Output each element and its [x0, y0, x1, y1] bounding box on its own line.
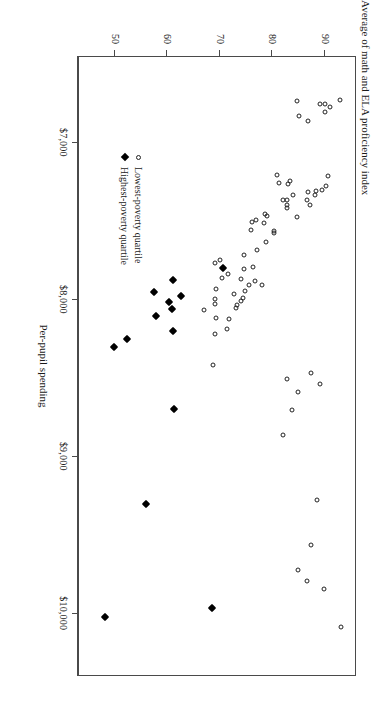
data-point [305, 119, 310, 124]
y-axis-tick [324, 50, 325, 56]
data-point [285, 376, 290, 381]
data-point [142, 500, 150, 508]
data-point [101, 613, 109, 621]
data-point [339, 624, 344, 629]
data-point [308, 370, 313, 375]
y-axis-tick-label: 70 [214, 4, 225, 44]
data-point [169, 276, 177, 284]
data-point [261, 220, 266, 225]
data-point [220, 275, 225, 280]
data-point [295, 568, 300, 573]
y-axis-tick-label: 50 [109, 4, 120, 44]
data-point [263, 240, 268, 245]
x-axis-tick-label: $7,000 [58, 128, 69, 157]
data-point [284, 205, 289, 210]
filled-diamond-icon [122, 150, 128, 164]
y-axis-tick-label: 60 [162, 4, 173, 44]
data-point [304, 579, 309, 584]
data-point [263, 211, 268, 216]
data-point [308, 543, 313, 548]
data-point [109, 343, 117, 351]
scatter-plot-figure: Average of math and ELA proficiency inde… [0, 0, 378, 710]
data-point [317, 382, 322, 387]
data-point [232, 292, 237, 297]
data-point [295, 215, 300, 220]
y-axis-tick [271, 50, 272, 56]
data-point [213, 301, 218, 306]
data-point [217, 258, 222, 263]
data-point [234, 306, 239, 311]
x-axis-tick [72, 142, 78, 143]
x-axis-title: Per-pupil spending [38, 56, 50, 676]
legend-marker-shape [137, 155, 142, 160]
data-point [177, 292, 185, 300]
data-point [323, 102, 328, 107]
data-point [169, 327, 177, 335]
legend-item-label: Highest-poverty quartile [120, 167, 131, 265]
data-point [297, 114, 302, 119]
data-point [328, 104, 333, 109]
legend-marker-shape [121, 153, 129, 161]
y-axis-tick [166, 50, 167, 56]
data-point [250, 220, 255, 225]
y-axis-tick-label: 80 [267, 4, 278, 44]
plot-area [78, 56, 356, 676]
data-point [275, 172, 280, 177]
legend-item-label: Lowest-poverty quartile [134, 167, 145, 263]
data-point [294, 99, 299, 104]
data-point [213, 331, 218, 336]
data-point [285, 197, 290, 202]
data-point [214, 315, 219, 320]
data-point [212, 261, 217, 266]
data-point [323, 109, 328, 114]
legend-item: Lowest-poverty quartile [132, 150, 146, 265]
data-point [242, 252, 247, 257]
legend: Lowest-poverty quartileHighest-poverty q… [118, 150, 146, 265]
data-point [259, 283, 264, 288]
data-point [306, 190, 311, 195]
data-point [247, 282, 252, 287]
data-point [337, 97, 342, 102]
data-point [325, 174, 330, 179]
data-point [318, 101, 323, 106]
data-point [271, 230, 276, 235]
data-point [210, 363, 215, 368]
data-point [291, 193, 296, 198]
data-point [123, 334, 131, 342]
x-axis-tick-label: $8,000 [58, 285, 69, 314]
chart-stage: Average of math and ELA proficiency inde… [0, 0, 378, 710]
data-point [251, 265, 256, 270]
data-point [315, 497, 320, 502]
data-point [214, 287, 219, 292]
data-point [241, 266, 246, 271]
data-point [202, 307, 207, 312]
data-point [226, 271, 231, 276]
data-point [319, 187, 324, 192]
data-point [149, 287, 157, 295]
x-axis-tick [72, 299, 78, 300]
data-point [280, 198, 285, 203]
open-circle-icon [137, 150, 142, 164]
data-point [239, 299, 244, 304]
y-axis-tick [114, 50, 115, 56]
data-point [170, 404, 178, 412]
legend-item: Highest-poverty quartile [118, 150, 132, 265]
data-point [152, 312, 160, 320]
x-axis-tick [72, 456, 78, 457]
data-point [281, 433, 286, 438]
y-axis-tick-label: 90 [319, 4, 330, 44]
data-point [313, 189, 318, 194]
data-point [304, 198, 309, 203]
data-point [276, 181, 281, 186]
data-point [252, 279, 257, 284]
data-point [242, 289, 247, 294]
data-point [208, 604, 216, 612]
data-point [227, 317, 232, 322]
data-point [290, 408, 295, 413]
data-point [308, 203, 313, 208]
data-point [321, 587, 326, 592]
x-axis-line [77, 56, 78, 676]
data-point [286, 182, 291, 187]
data-point [239, 276, 244, 281]
data-point [168, 305, 176, 313]
